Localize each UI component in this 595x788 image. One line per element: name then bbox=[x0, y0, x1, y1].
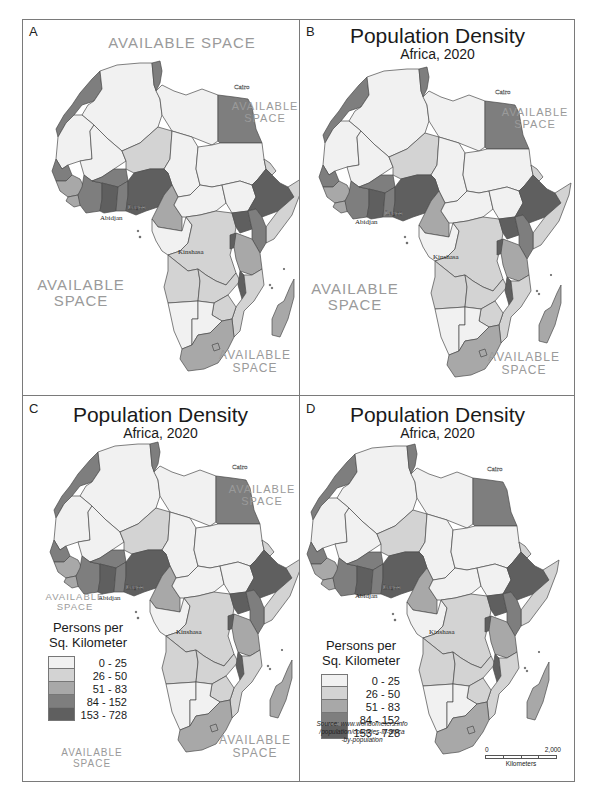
map-subtitle: Africa, 2020 bbox=[299, 426, 576, 441]
available-space-label: AVAILABLESPACE bbox=[210, 734, 299, 759]
legend-swatch bbox=[321, 674, 348, 687]
city-label-abidjan: Abidjan bbox=[100, 214, 123, 222]
legend-swatch bbox=[48, 708, 75, 721]
map-title-block: Population Density Africa, 2020 bbox=[299, 25, 576, 62]
map-subtitle: Africa, 2020 bbox=[299, 47, 576, 62]
available-space-label: AVAILABLE SPACE bbox=[82, 35, 282, 51]
legend-row: 51 - 83 bbox=[321, 700, 401, 713]
scale-bar: 0 2,000 Kilometers bbox=[485, 746, 565, 767]
available-space-label: AVAILABLESPACE bbox=[495, 107, 575, 130]
legend-row: 0 - 25 bbox=[321, 674, 401, 687]
panel-c: Cairo Lagos Abidjan Kinshasa C Populatio… bbox=[22, 396, 299, 772]
panel-b: Cairo Lagos Abidjan Kinshasa B Populatio… bbox=[299, 19, 576, 395]
city-label-cairo: Cairo bbox=[495, 88, 511, 96]
available-space-label: AVAILABLESPACE bbox=[52, 748, 132, 769]
city-label-cairo: Cairo bbox=[487, 465, 503, 473]
map-title: Population Density bbox=[299, 404, 576, 426]
city-label-cairo: Cairo bbox=[232, 463, 248, 471]
scale-end: 2,000 bbox=[545, 746, 561, 753]
available-space-label: AVAILABLESPACE bbox=[230, 101, 299, 124]
legend-row: 153 - 728 bbox=[48, 708, 128, 721]
africa-map: Cairo Lagos Abidjan Kinshasa bbox=[299, 19, 576, 395]
available-space-label: AVAILABLESPACE bbox=[479, 351, 569, 376]
map-title-block: Population Density Africa, 2020 bbox=[22, 404, 299, 441]
map-title-block: Population Density Africa, 2020 bbox=[299, 404, 576, 441]
city-label-abidjan: Abidjan bbox=[355, 218, 378, 226]
city-label-kinshasa: Kinshasa bbox=[178, 248, 205, 256]
africa-map: Cairo Lagos Abidjan Kinshasa bbox=[22, 19, 299, 395]
legend-title: Persons perSq. Kilometer bbox=[321, 638, 401, 668]
legend-row: 26 - 50 bbox=[48, 669, 128, 682]
map-subtitle: Africa, 2020 bbox=[22, 426, 299, 441]
available-space-label: AVAILABLESPACE bbox=[222, 484, 299, 507]
legend-swatch bbox=[48, 656, 75, 669]
scale-unit: Kilometers bbox=[485, 760, 557, 767]
legend-swatch bbox=[48, 669, 75, 682]
available-space-label: AVAILABLESPACE bbox=[210, 349, 299, 374]
panel-d: Cairo Lagos Abidjan Kinshasa D Populatio… bbox=[299, 396, 576, 772]
legend-row: 84 - 152 bbox=[48, 695, 128, 708]
legend-title: Persons perSq. Kilometer bbox=[48, 620, 128, 650]
legend-row: 26 - 50 bbox=[321, 687, 401, 700]
legend-row: 0 - 25 bbox=[48, 656, 128, 669]
source-note: Source: www.worldometers.info /populatio… bbox=[307, 720, 417, 744]
panel-a: Cairo Lagos Abidjan Kinshasa A AVAILABLE… bbox=[22, 19, 299, 395]
legend-swatch bbox=[321, 687, 348, 700]
city-label-abidjan: Abidjan bbox=[355, 592, 378, 600]
available-space-label: AVAILABLESPACE bbox=[40, 592, 110, 612]
scale-start: 0 bbox=[485, 746, 489, 753]
available-space-label: AVAILABLESPACE bbox=[26, 277, 136, 309]
legend: Persons perSq. Kilometer 0 - 25 26 - 50 … bbox=[48, 620, 128, 721]
city-label-lagos: Lagos bbox=[385, 209, 402, 217]
map-title: Population Density bbox=[22, 404, 299, 426]
city-label-kinshasa: Kinshasa bbox=[176, 628, 203, 636]
panel-letter: A bbox=[29, 24, 38, 39]
legend-row: 51 - 83 bbox=[48, 682, 128, 695]
legend-swatch bbox=[48, 682, 75, 695]
city-label-cairo: Cairo bbox=[234, 83, 250, 91]
city-label-kinshasa: Kinshasa bbox=[433, 253, 460, 261]
available-space-label: AVAILABLESPACE bbox=[303, 281, 407, 313]
map-title: Population Density bbox=[299, 25, 576, 47]
city-label-lagos: Lagos bbox=[126, 583, 143, 591]
legend-swatch bbox=[321, 700, 348, 713]
legend-swatch bbox=[48, 695, 75, 708]
city-label-lagos: Lagos bbox=[383, 583, 400, 591]
city-label-lagos: Lagos bbox=[128, 203, 145, 211]
city-label-kinshasa: Kinshasa bbox=[429, 628, 456, 636]
